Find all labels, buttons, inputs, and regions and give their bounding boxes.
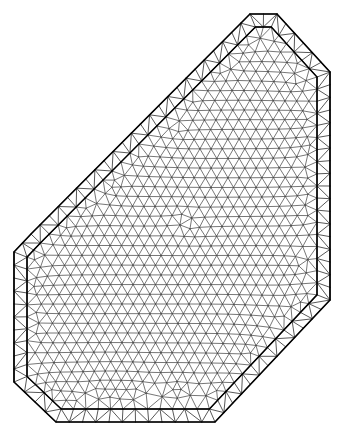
mesh-canvas [0, 0, 346, 440]
mesh-figure [0, 0, 346, 440]
